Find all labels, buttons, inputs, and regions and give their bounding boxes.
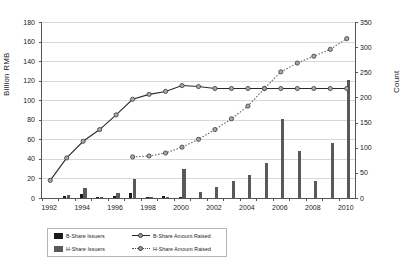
y-left-tick-label: 100 [15, 97, 35, 104]
data-point-marker [213, 86, 217, 90]
y-left-tick-label: 40 [15, 155, 35, 162]
y-axis-left-title: Billion RMB [2, 52, 11, 96]
data-point-marker [196, 84, 200, 88]
data-point-marker [328, 47, 332, 51]
legend-label: H-Share Amount Raised [153, 246, 211, 252]
legend-label: B-Share Amount Raised [153, 233, 211, 239]
x-tick-label: 1992 [34, 204, 64, 211]
y-right-tickmark [355, 22, 358, 23]
y-right-tick-label: 150 [360, 119, 382, 126]
y-right-tick-label: 350 [360, 19, 382, 26]
x-tickmark [289, 198, 290, 201]
data-point-marker [98, 127, 102, 131]
y-left-tick-label: 160 [15, 38, 35, 45]
x-tickmark [108, 198, 109, 201]
legend-label: B-Share Issuers [66, 233, 105, 239]
data-point-marker [114, 113, 118, 117]
y-left-tick-label: 20 [15, 175, 35, 182]
y-right-tickmark [355, 148, 358, 149]
data-point-marker [312, 54, 316, 58]
legend-item: H-Share Amount Raised [127, 245, 225, 252]
data-point-marker [295, 61, 299, 65]
legend-item: B-Share Amount Raised [127, 232, 225, 239]
x-tickmark [207, 198, 208, 201]
x-tick-label: 1994 [67, 204, 97, 211]
legend-swatch-icon [54, 233, 63, 239]
data-point-marker [180, 145, 184, 149]
y-right-tick-label: 0 [360, 195, 382, 202]
x-tick-label: 2000 [166, 204, 196, 211]
x-tickmark [256, 198, 257, 201]
data-point-marker [262, 86, 266, 90]
x-tickmark [306, 198, 307, 201]
line-layer [42, 22, 355, 198]
data-point-marker [312, 86, 316, 90]
y-right-tick-label: 250 [360, 69, 382, 76]
plot-area [41, 22, 356, 199]
chart-legend: B-Share IssuersB-Share Amount RaisedH-Sh… [47, 228, 227, 257]
y-right-tick-label: 100 [360, 144, 382, 151]
y-left-tick-label: 0 [15, 195, 35, 202]
y-right-tickmark [355, 72, 358, 73]
x-tick-label: 2010 [331, 204, 361, 211]
data-point-marker [213, 127, 217, 131]
data-point-marker [295, 86, 299, 90]
data-point-marker [65, 156, 69, 160]
y-left-tick-label: 80 [15, 116, 35, 123]
legend-item: H-Share Issuers [49, 246, 127, 252]
y-right-tickmark [355, 173, 358, 174]
data-point-marker [279, 86, 283, 90]
x-tickmark [42, 198, 43, 201]
x-tickmark [75, 198, 76, 201]
x-tickmark [322, 198, 323, 201]
x-tickmark [339, 198, 340, 201]
x-tickmark [58, 198, 59, 201]
y-axis-right-title: Count [392, 71, 401, 93]
data-point-marker [180, 83, 184, 87]
y-right-tickmark [355, 198, 358, 199]
data-point-marker [279, 70, 283, 74]
y-left-tick-label: 180 [15, 19, 35, 26]
b-share-amount-line [50, 86, 347, 181]
legend-label: H-Share Issuers [66, 246, 105, 252]
x-tickmark [223, 198, 224, 201]
y-right-tickmark [355, 97, 358, 98]
x-tickmark [157, 198, 158, 201]
data-point-marker [196, 137, 200, 141]
x-tickmark [124, 198, 125, 201]
data-point-marker [246, 104, 250, 108]
data-point-marker [345, 86, 349, 90]
x-tickmark [174, 198, 175, 201]
y-left-tick-label: 140 [15, 58, 35, 65]
x-tick-label: 2008 [298, 204, 328, 211]
data-point-marker [345, 37, 349, 41]
x-tickmark [273, 198, 274, 201]
data-point-marker [147, 92, 151, 96]
x-tickmark [190, 198, 191, 201]
x-tick-label: 2006 [265, 204, 295, 211]
legend-swatch-icon [54, 246, 63, 252]
data-point-marker [246, 86, 250, 90]
chart-container: Billion RMB Count 0204060801001201401601… [0, 0, 408, 262]
data-point-marker [131, 155, 135, 159]
x-tickmark [240, 198, 241, 201]
x-tick-label: 1996 [100, 204, 130, 211]
data-point-marker [229, 86, 233, 90]
b-share-markers [48, 83, 349, 182]
data-point-marker [163, 89, 167, 93]
y-right-tickmark [355, 123, 358, 124]
x-tick-label: 2002 [199, 204, 229, 211]
data-point-marker [48, 178, 52, 182]
data-point-marker [163, 151, 167, 155]
y-right-tick-label: 200 [360, 94, 382, 101]
y-left-tick-label: 120 [15, 77, 35, 84]
legend-line-icon [132, 245, 150, 252]
data-point-marker [131, 97, 135, 101]
x-tickmark [141, 198, 142, 201]
legend-item: B-Share Issuers [49, 233, 127, 239]
legend-line-icon [132, 232, 150, 239]
x-tick-label: 2004 [232, 204, 262, 211]
y-right-tick-label: 50 [360, 169, 382, 176]
y-right-tick-label: 300 [360, 44, 382, 51]
x-tickmark [91, 198, 92, 201]
